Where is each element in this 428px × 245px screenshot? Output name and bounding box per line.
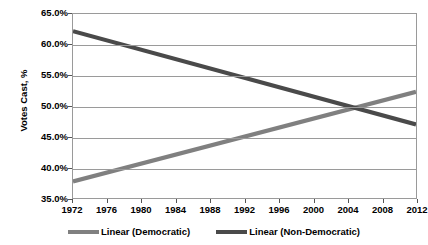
y-axis-tick-label: 40.0% [22, 163, 68, 173]
y-axis-tick-label: 65.0% [22, 8, 68, 18]
y-axis-tick-mark [68, 137, 72, 138]
x-axis-tick-mark [314, 199, 315, 203]
y-axis-tick-label: 60.0% [22, 39, 68, 49]
series-lines [73, 14, 416, 198]
y-axis-tick-mark [68, 75, 72, 76]
y-axis-tick-mark [68, 168, 72, 169]
gridline [73, 45, 416, 46]
x-axis-tick-mark [210, 199, 211, 203]
y-axis-tick-label: 55.0% [22, 70, 68, 80]
y-axis-tick-label: 35.0% [22, 194, 68, 204]
legend-swatch-icon [68, 230, 99, 234]
chart-container: Votes Cast, % 65.0%60.0%55.0%50.0%45.0%4… [0, 0, 428, 245]
chart-legend: Linear (Democratic)Linear (Non-Democrati… [0, 226, 428, 237]
x-axis-tick-mark [107, 199, 108, 203]
gridline [73, 169, 416, 170]
legend-item[interactable]: Linear (Non-Democratic) [216, 226, 360, 237]
y-axis-tick-mark [68, 44, 72, 45]
x-axis-tick-mark [141, 199, 142, 203]
legend-label: Linear (Non-Democratic) [249, 226, 360, 237]
legend-label: Linear (Democratic) [101, 226, 190, 237]
gridline [73, 138, 416, 139]
x-axis-tick-mark [383, 199, 384, 203]
legend-swatch-icon [216, 230, 247, 234]
y-axis-tick-mark [68, 106, 72, 107]
gridline [73, 107, 416, 108]
x-axis-tick-mark [417, 199, 418, 203]
x-axis-tick-mark [348, 199, 349, 203]
x-axis-tick-mark [245, 199, 246, 203]
trendline-linear-democratic [73, 92, 416, 182]
y-axis-tick-mark [68, 13, 72, 14]
y-axis-tick-mark [68, 199, 72, 200]
gridline [73, 76, 416, 77]
legend-item[interactable]: Linear (Democratic) [68, 226, 190, 237]
x-axis-tick-mark [279, 199, 280, 203]
plot-area [72, 13, 417, 199]
y-axis-tick-label: 50.0% [22, 101, 68, 111]
y-axis-tick-label: 45.0% [22, 132, 68, 142]
x-axis-tick-mark [176, 199, 177, 203]
x-axis-tick-mark [72, 199, 73, 203]
x-axis-tick-label: 2012 [397, 204, 428, 215]
